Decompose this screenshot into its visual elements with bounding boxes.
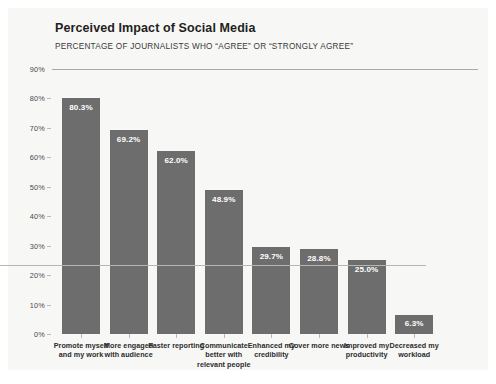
bar[interactable]	[205, 190, 243, 334]
x-axis-tick-mark	[319, 334, 320, 338]
y-axis-tick-label: 60%	[11, 153, 45, 162]
bar-value-label: 62.0%	[157, 156, 195, 165]
y-axis-tick-mark	[47, 275, 51, 276]
y-axis-tick-label: 50%	[11, 183, 45, 192]
chart-title: Perceived Impact of Social Media	[55, 21, 256, 35]
chart-subtitle: PERCENTAGE OF JOURNALISTS WHO “AGREE” OR…	[55, 42, 353, 51]
bar-group: 28.8%	[300, 249, 338, 334]
x-axis-tick-mark	[81, 334, 82, 338]
bar-group: 6.3%	[395, 315, 433, 334]
y-axis-tick-mark	[47, 305, 51, 306]
gridline-top	[52, 69, 478, 70]
chart-figure: Perceived Impact of Social Media PERCENT…	[0, 0, 496, 384]
bar[interactable]	[110, 130, 148, 334]
y-axis-tick-label: 80%	[11, 94, 45, 103]
y-axis-tick-label: 40%	[11, 212, 45, 221]
bar-value-label: 69.2%	[110, 135, 148, 144]
bar-group: 80.3%	[62, 98, 100, 334]
x-axis-tick-mark	[414, 334, 415, 338]
y-axis-tick-label: 30%	[11, 242, 45, 251]
x-axis-tick-mark	[176, 334, 177, 338]
bar-group: 62.0%	[157, 151, 195, 334]
bar[interactable]	[157, 151, 195, 334]
bar-group: 29.7%	[252, 247, 290, 334]
y-axis-tick-mark	[47, 187, 51, 188]
bar[interactable]	[62, 98, 100, 334]
bar-group: 25.0%	[348, 260, 386, 334]
bar-value-label: 29.7%	[252, 252, 290, 261]
x-axis-tick-mark	[367, 334, 368, 338]
bar-group: 48.9%	[205, 190, 243, 334]
x-axis-tick-mark	[224, 334, 225, 338]
y-axis-tick-mark	[47, 334, 51, 335]
y-axis-tick-mark	[47, 157, 51, 158]
y-axis-tick-label: 90%	[11, 65, 45, 74]
x-axis-tick-mark	[129, 334, 130, 338]
axis-baseline	[0, 265, 426, 266]
y-axis-tick-mark	[47, 246, 51, 247]
y-axis-tick-mark	[47, 216, 51, 217]
bar-value-label: 28.8%	[300, 254, 338, 263]
x-axis-category-label: Decreased myworkload	[383, 341, 445, 360]
bar-value-label: 6.3%	[395, 319, 433, 328]
bar-value-label: 25.0%	[348, 265, 386, 274]
y-axis-tick-label: 20%	[11, 271, 45, 280]
y-axis-tick-mark	[47, 98, 51, 99]
x-axis-tick-mark	[271, 334, 272, 338]
y-axis-tick-mark	[47, 128, 51, 129]
y-axis-tick-label: 0%	[11, 330, 45, 339]
y-axis-tick-label: 10%	[11, 301, 45, 310]
plot-area: 80.3%69.2%62.0%48.9%29.7%28.8%25.0%6.3%	[52, 69, 478, 334]
bar-group: 69.2%	[110, 130, 148, 334]
bar-value-label: 80.3%	[62, 103, 100, 112]
y-axis-tick-label: 70%	[11, 124, 45, 133]
bar-value-label: 48.9%	[205, 195, 243, 204]
